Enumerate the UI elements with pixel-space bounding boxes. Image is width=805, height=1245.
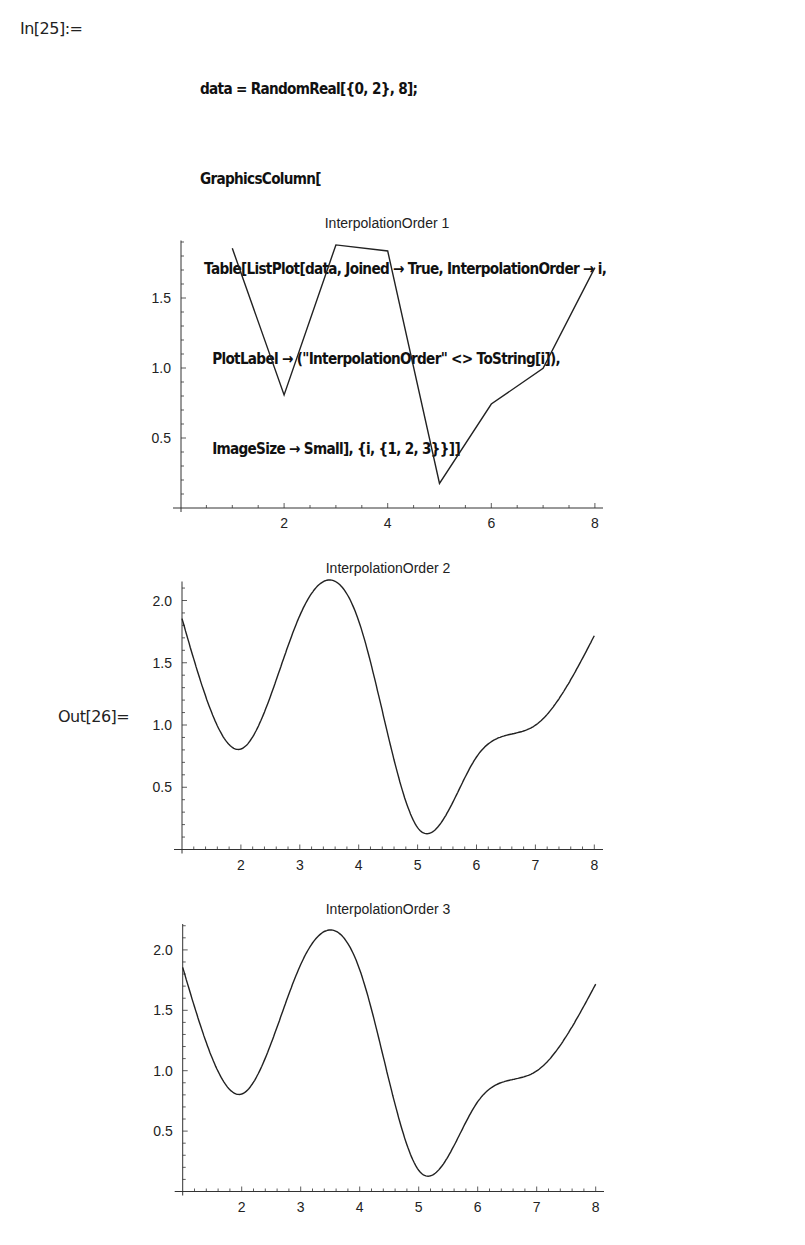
x-tick-label: 2 <box>238 1199 246 1215</box>
axes: 23456780.51.01.52.0 <box>153 924 604 1215</box>
y-tick-label: 1.5 <box>153 1002 173 1018</box>
x-tick-label: 6 <box>474 1199 482 1215</box>
x-tick-label: 3 <box>297 1199 305 1215</box>
x-tick-label: 4 <box>356 1199 364 1215</box>
x-tick-label: 7 <box>533 1199 541 1215</box>
plot-title: InterpolationOrder 3 <box>326 901 451 917</box>
x-tick-label: 5 <box>415 1199 423 1215</box>
plot-interpolation-order-3: InterpolationOrder 3 23456780.51.01.52.0 <box>0 0 805 1245</box>
y-tick-label: 1.0 <box>153 1063 173 1079</box>
data-curve <box>183 930 596 1176</box>
y-tick-label: 2.0 <box>153 942 173 958</box>
y-tick-label: 0.5 <box>153 1123 173 1139</box>
x-tick-label: 8 <box>592 1199 600 1215</box>
